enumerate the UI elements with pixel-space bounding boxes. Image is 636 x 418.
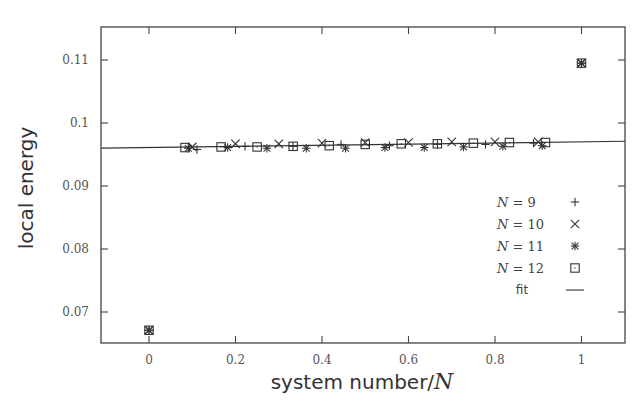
marker-plus [433, 140, 441, 148]
legend-item: fit [516, 283, 584, 297]
marker-x [491, 138, 499, 146]
marker-asterisk [459, 143, 467, 151]
legend-item: N = 11 [496, 239, 579, 254]
marker-plus [241, 142, 249, 150]
marker-asterisk [420, 143, 428, 151]
marker-asterisk [302, 144, 310, 152]
legend-label: fit [516, 283, 529, 297]
marker-asterisk [381, 143, 389, 151]
marker-asterisk [223, 143, 231, 151]
x-tick-label: 1 [578, 353, 586, 367]
marker-square [253, 143, 261, 151]
y-tick-label: 0.07 [62, 305, 89, 319]
axis-ticks: 00.20.40.60.810.070.080.090.10.11 [62, 27, 625, 367]
y-axis-label: local energy [14, 127, 38, 250]
legend-label: N = 10 [496, 217, 544, 232]
y-tick-label: 0.11 [62, 53, 89, 67]
legend-label: N = 12 [496, 261, 544, 276]
x-tick-label: 0 [145, 353, 153, 367]
legend: N = 9N = 10N = 11N = 12fit [496, 195, 584, 297]
legend-item: N = 12 [496, 261, 579, 276]
legend-label: N = 9 [496, 195, 536, 210]
x-axis-label-var: N [433, 369, 454, 394]
marker-x [361, 138, 369, 146]
marker-asterisk [263, 144, 271, 152]
legend-item: N = 10 [496, 217, 579, 232]
marker-asterisk [571, 242, 579, 250]
x-tick-label: 0.4 [312, 353, 331, 367]
x-tick-label: 0.8 [485, 353, 504, 367]
chart: 00.20.40.60.810.070.080.090.10.11 N = 9N… [0, 0, 636, 418]
plot-border [101, 27, 625, 343]
marker-x [448, 138, 456, 146]
x-axis-label-text: system number/ [271, 370, 435, 394]
x-axis-label: system number/N [271, 369, 454, 394]
legend-item: N = 9 [496, 195, 579, 210]
marker-square [571, 264, 579, 272]
marker-x [275, 140, 283, 148]
y-tick-label: 0.1 [70, 116, 89, 130]
marker-plus [571, 198, 579, 206]
y-tick-label: 0.08 [62, 242, 89, 256]
x-tick-label: 0.6 [399, 353, 418, 367]
marker-asterisk [184, 144, 192, 152]
marker-plus [481, 140, 489, 148]
y-tick-label: 0.09 [62, 179, 89, 193]
marker-x [571, 220, 579, 228]
plot-frame [101, 27, 625, 343]
legend-label: N = 11 [496, 239, 544, 254]
marker-asterisk [341, 144, 349, 152]
x-tick-label: 0.2 [226, 353, 245, 367]
